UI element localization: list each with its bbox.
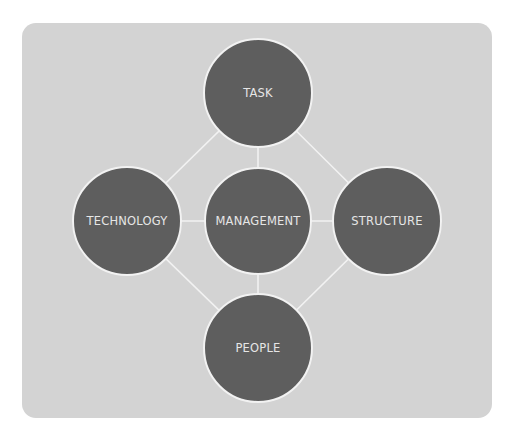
node-structure-label: STRUCTURE	[351, 214, 422, 228]
node-people: PEOPLE	[203, 293, 313, 403]
node-task: TASK	[203, 38, 313, 148]
node-technology-label: TECHNOLOGY	[86, 214, 167, 228]
node-technology: TECHNOLOGY	[72, 166, 182, 276]
node-management-label: MANAGEMENT	[215, 214, 300, 228]
node-structure: STRUCTURE	[332, 166, 442, 276]
node-management: MANAGEMENT	[204, 167, 312, 275]
node-task-label: TASK	[243, 86, 273, 100]
node-people-label: PEOPLE	[235, 341, 280, 355]
